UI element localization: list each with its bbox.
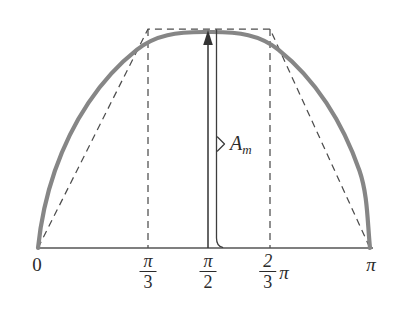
tick-denominator-pi-over-3: 3: [142, 272, 155, 291]
tick-label-pi-over-2: π 2: [200, 252, 217, 292]
tick-fraction-two-thirds: 2 3: [259, 252, 276, 292]
tick-label-pi-over-3: π 3: [140, 252, 157, 292]
tick-text-pi-end: π: [366, 254, 376, 275]
tick-denominator-two-thirds: 3: [261, 272, 274, 291]
tick-trailing-pi: π: [279, 260, 289, 284]
trapezoid-approximation-path: [38, 29, 370, 248]
tick-denominator-pi-over-2: 2: [202, 272, 215, 291]
tick-numerator-pi-over-2: π: [201, 252, 214, 271]
amplitude-subscript: m: [242, 142, 251, 157]
tick-numerator-two-thirds: 2: [261, 252, 274, 271]
tick-numerator-pi-over-3: π: [141, 252, 154, 271]
figure-canvas: Am 0 π 3 π 2 2 3 π π: [0, 0, 402, 311]
amplitude-symbol: A: [230, 132, 242, 154]
tick-label-origin: 0: [32, 255, 42, 274]
amplitude-label: Am: [230, 133, 252, 156]
tick-label-pi-end: π: [366, 255, 376, 274]
amplitude-brace-pointer: [218, 137, 225, 151]
tick-label-two-thirds-pi: 2 3 π: [259, 252, 289, 292]
tick-text-origin: 0: [32, 254, 42, 275]
sine-curve-path: [38, 32, 370, 248]
